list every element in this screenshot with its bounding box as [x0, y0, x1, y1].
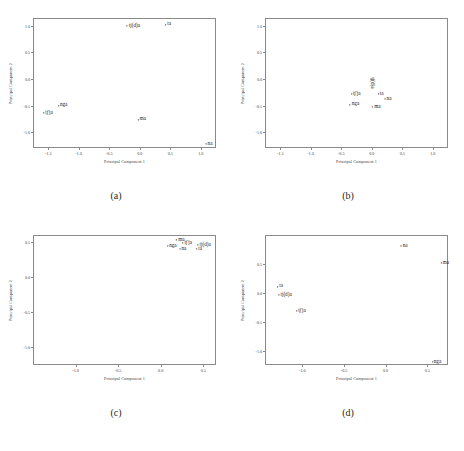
data-point-marker — [127, 26, 128, 27]
data-point-label: tj(d)a — [198, 243, 211, 248]
y-tick-label: 0.0 — [257, 290, 262, 295]
data-point-marker — [277, 286, 278, 287]
data-point-text: tj(d)a — [200, 242, 211, 248]
x-axis-ticks-a: -1.5-1.0-0.50.00.51.0 — [33, 148, 216, 158]
data-point-marker — [441, 263, 442, 264]
data-point-label: tj(d)a — [127, 23, 140, 28]
scatter-points-b: tj(d)atj'jatanangama — [266, 19, 447, 147]
data-point-marker — [351, 94, 352, 95]
panel-caption-b: (b) — [232, 190, 464, 201]
x-tick-label: 0.5 — [201, 368, 206, 373]
y-tick-label: 0.0 — [25, 275, 30, 280]
x-axis-title-d: Principal Component 1 — [265, 376, 448, 381]
data-point-text: ma — [140, 116, 146, 122]
data-point-marker — [385, 99, 386, 100]
data-point-label: na — [401, 243, 408, 248]
plot-frame-d: namatatj(d)atj'janga — [265, 235, 448, 365]
data-point-marker — [180, 248, 181, 249]
x-tick-label: -1.0 — [299, 368, 305, 373]
data-point-marker — [350, 104, 351, 105]
data-point-label: na — [385, 97, 392, 102]
y-axis-ticks-d: -1.0-0.50.00.5 — [255, 235, 265, 365]
data-point-marker — [279, 295, 280, 296]
data-point-text: tj'ja — [45, 109, 53, 115]
x-tick-label: -0.5 — [341, 368, 347, 373]
data-point-text: na — [387, 96, 392, 102]
data-point-label: tj'ja — [296, 309, 306, 314]
y-tick-label: 0.5 — [257, 261, 262, 266]
data-point-text: na — [403, 242, 408, 248]
panel-c: Principal Component 2 -1.0-0.50.00.5 mat… — [0, 219, 232, 441]
data-point-marker — [296, 311, 297, 312]
y-tick-label: -1.0 — [256, 130, 262, 135]
x-axis-ticks-b: -1.5-1.0-0.50.00.51.0 — [265, 148, 448, 158]
data-point-text: ta — [167, 21, 171, 27]
data-point-marker — [196, 248, 197, 249]
data-point-marker — [182, 243, 183, 244]
y-tick-label: -0.5 — [24, 103, 30, 108]
x-tick-label: -0.5 — [338, 151, 344, 156]
data-point-label: tj(d)a — [370, 77, 375, 88]
panel-b: Principal Component 2 -1.0-0.50.00.51.0 … — [232, 2, 464, 224]
x-tick-label: 0.0 — [158, 368, 163, 373]
data-point-label: nga — [432, 359, 442, 364]
plot-frame-b: tj(d)atj'jatanangama — [265, 18, 448, 148]
y-axis-ticks-a: -1.0-0.50.00.51.0 — [23, 18, 33, 148]
x-tick-label: -1.5 — [277, 151, 283, 156]
data-point-marker — [432, 362, 433, 363]
y-axis-title-b: Principal Component 2 — [237, 18, 247, 148]
x-tick-label: -1.0 — [308, 151, 314, 156]
data-point-marker — [58, 105, 59, 106]
data-point-marker — [176, 239, 177, 240]
plot-frame-a: tj(d)atangatj'jamana — [33, 18, 216, 148]
data-point-marker — [198, 245, 199, 246]
data-point-label: nga — [58, 103, 68, 108]
data-point-text: na — [208, 140, 213, 146]
data-point-marker — [138, 119, 139, 120]
data-point-label: ma — [441, 261, 449, 266]
plot-area-d: Principal Component 2 -1.0-0.50.00.5 nam… — [232, 219, 464, 404]
x-axis-title-b: Principal Component 1 — [265, 159, 448, 164]
data-point-marker — [372, 106, 373, 107]
x-axis-ticks-c: -1.0-0.50.00.5 — [33, 365, 216, 375]
scatter-points-d: namatatj(d)atj'janga — [266, 236, 447, 364]
y-axis-title-a: Principal Component 2 — [5, 18, 15, 148]
y-tick-label: -0.5 — [256, 103, 262, 108]
x-tick-label: -1.5 — [45, 151, 51, 156]
scatter-points-a: tj(d)atangatj'jamana — [34, 19, 215, 147]
data-point-text: ma — [374, 103, 380, 109]
x-tick-label: 0.0 — [383, 368, 388, 373]
data-point-text: tj'ja — [298, 308, 306, 314]
y-axis-title-c: Principal Component 2 — [5, 235, 15, 365]
y-tick-label: -0.5 — [24, 310, 30, 315]
panel-caption-d: (d) — [232, 407, 464, 418]
plot-area-b: Principal Component 2 -1.0-0.50.00.51.0 … — [232, 2, 464, 187]
x-tick-label: 0.0 — [137, 151, 142, 156]
x-tick-label: 1.0 — [198, 151, 203, 156]
x-tick-label: -1.0 — [72, 368, 78, 373]
data-point-text: tj(d)a — [370, 77, 376, 88]
y-tick-label: 1.0 — [257, 23, 262, 28]
data-point-label: ta — [378, 91, 384, 96]
data-point-marker — [43, 113, 44, 114]
data-point-label: ta — [165, 22, 171, 27]
x-tick-label: -1.0 — [76, 151, 82, 156]
data-point-text: nga — [169, 242, 177, 248]
data-point-text: tj(d)a — [129, 22, 140, 28]
x-axis-ticks-d: -1.0-0.50.00.5 — [265, 365, 448, 375]
data-point-text: tj(d)a — [281, 291, 292, 297]
data-point-label: ma — [138, 117, 146, 122]
data-point-text: ma — [443, 260, 449, 266]
x-tick-label: -0.5 — [115, 368, 121, 373]
data-point-text: nga — [434, 358, 442, 364]
data-point-text: nga — [352, 101, 360, 107]
x-tick-label: -0.5 — [106, 151, 112, 156]
x-tick-label: 0.5 — [425, 368, 430, 373]
data-point-marker — [401, 246, 402, 247]
plot-area-c: Principal Component 2 -1.0-0.50.00.5 mat… — [0, 219, 232, 404]
x-tick-label: 0.5 — [400, 151, 405, 156]
x-axis-title-a: Principal Component 1 — [33, 159, 216, 164]
data-point-label: na — [180, 246, 187, 251]
data-point-label: nga — [350, 102, 360, 107]
data-point-label: tj'ja — [351, 91, 361, 96]
